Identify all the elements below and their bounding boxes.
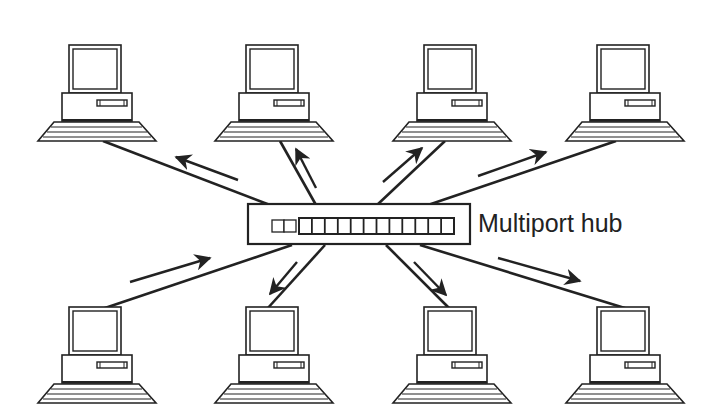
- arrow-top-1-icon: [176, 157, 238, 180]
- computer-bottom-1: [38, 307, 156, 403]
- computer-top-1: [38, 45, 156, 141]
- computer-bottom-3: [393, 307, 511, 403]
- cable-bottom-3: [386, 245, 450, 309]
- cable-top-4: [428, 141, 616, 205]
- computer-top-3: [393, 45, 511, 141]
- computer-bottom-2: [215, 307, 333, 403]
- hub-port-icon: [284, 220, 296, 232]
- arrow-top-4-icon: [478, 152, 546, 176]
- cable-bottom-1: [102, 245, 292, 309]
- cable-top-3: [377, 141, 445, 205]
- cable-top-1: [103, 141, 270, 205]
- hub-label: Multiport hub: [478, 209, 623, 238]
- cable-bottom-4: [420, 245, 628, 309]
- arrow-top-3-icon: [383, 148, 422, 182]
- computer-top-4: [566, 45, 684, 141]
- arrow-top-2-icon: [296, 149, 316, 188]
- computer-top-2: [215, 45, 333, 141]
- cable-bottom-2: [267, 245, 325, 309]
- arrow-bottom-1-icon: [130, 258, 210, 282]
- computer-bottom-4: [566, 307, 684, 403]
- hub-port-icon: [272, 220, 284, 232]
- multiport-hub: [248, 204, 470, 244]
- network-diagram: Multiport hub: [0, 0, 714, 418]
- arrow-bottom-4-icon: [498, 258, 580, 281]
